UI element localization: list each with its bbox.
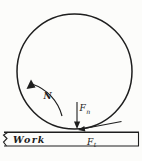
work-label: Work bbox=[13, 134, 46, 145]
fn-arrowhead-icon bbox=[74, 122, 80, 130]
rotation-speed-label: N bbox=[43, 91, 53, 101]
grinding-wheel-diagram: N Fn Ft Work bbox=[0, 0, 142, 161]
diagram-canvas: N Fn Ft Work bbox=[0, 0, 142, 161]
wheel-circle bbox=[17, 14, 132, 129]
fn-label: Fn bbox=[79, 103, 91, 115]
work-bar-break-edge-left bbox=[4, 132, 9, 146]
fn-label-sub: n bbox=[86, 108, 90, 115]
ft-label-sub: t bbox=[94, 141, 97, 148]
